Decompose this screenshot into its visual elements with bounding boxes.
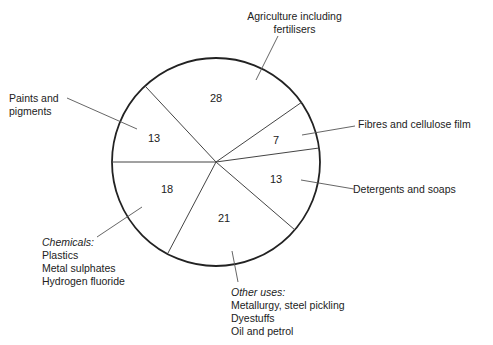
label-paints: Paints and pigments xyxy=(9,92,59,118)
label-fibres: Fibres and cellulose film xyxy=(358,118,471,131)
label-agriculture-line1: Agriculture including xyxy=(232,10,357,23)
label-paints-line2: pigments xyxy=(9,105,59,118)
label-other-item: Metallurgy, steel pickling xyxy=(231,299,345,312)
value-fibres: 7 xyxy=(273,134,279,146)
label-other: Other uses: Metallurgy, steel pickling D… xyxy=(231,286,345,338)
value-detergents: 13 xyxy=(270,173,282,185)
value-paints: 13 xyxy=(148,132,160,144)
label-chemicals-item: Plastics xyxy=(42,249,125,262)
label-chemicals-heading: Chemicals: xyxy=(42,236,125,249)
label-fibres-line1: Fibres and cellulose film xyxy=(358,118,471,131)
value-agriculture: 28 xyxy=(210,92,222,104)
label-paints-line1: Paints and xyxy=(9,92,59,105)
label-chemicals-item: Hydrogen fluoride xyxy=(42,275,125,288)
label-detergents: Detergents and soaps xyxy=(353,183,456,196)
label-other-heading: Other uses: xyxy=(231,286,345,299)
slice-dividers xyxy=(112,87,319,253)
label-other-item: Dyestuffs xyxy=(231,312,345,325)
value-chemicals: 18 xyxy=(161,183,173,195)
value-other: 21 xyxy=(218,212,230,224)
label-chemicals-item: Metal sulphates xyxy=(42,262,125,275)
label-other-item: Oil and petrol xyxy=(231,325,345,338)
label-agriculture-line2: fertilisers xyxy=(232,23,357,36)
label-detergents-line1: Detergents and soaps xyxy=(353,183,456,196)
label-chemicals: Chemicals: Plastics Metal sulphates Hydr… xyxy=(42,236,125,288)
label-agriculture: Agriculture including fertilisers xyxy=(232,10,357,36)
